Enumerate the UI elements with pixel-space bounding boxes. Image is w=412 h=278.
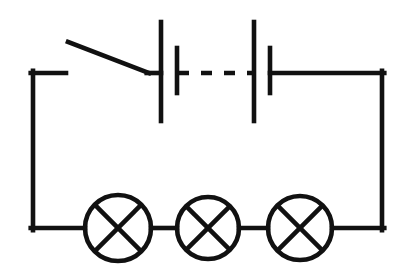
lamp-3[interactable] bbox=[268, 196, 332, 260]
lamp-2[interactable] bbox=[177, 197, 239, 259]
circuit-diagram-canvas bbox=[0, 0, 412, 278]
lamp-1[interactable] bbox=[85, 195, 151, 261]
switch-blade-icon[interactable] bbox=[68, 42, 149, 73]
circuit-svg bbox=[0, 0, 412, 278]
